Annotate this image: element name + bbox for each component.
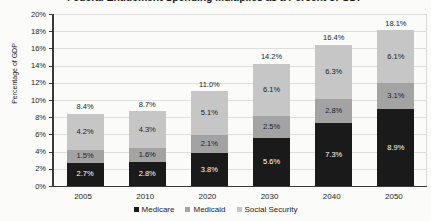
bar-segment-value-label: 1.5% bbox=[67, 153, 104, 161]
stacked-bar[interactable]: 6.1%3.1%8.9% bbox=[377, 30, 414, 186]
gridline bbox=[54, 100, 427, 101]
legend-swatch-icon bbox=[134, 207, 139, 212]
bar-total-value-label: 18.1% bbox=[369, 20, 422, 28]
bar-group[interactable]: 6.1%3.1%8.9%18.1% bbox=[377, 14, 414, 186]
bar-group[interactable]: 6.3%2.8%7.3%16.4% bbox=[315, 14, 352, 186]
legend-label: Medicaid bbox=[193, 205, 225, 214]
bar-segment-value-label: 6.3% bbox=[315, 68, 352, 76]
bar-segment-value-label: 3.1% bbox=[377, 92, 414, 100]
bar-segment-value-label: 2.1% bbox=[191, 141, 228, 149]
bar-segment-value-label: 7.3% bbox=[315, 151, 352, 159]
x-axis-tick-label: 2010 bbox=[114, 192, 176, 201]
bar-segment[interactable]: 5.6% bbox=[253, 138, 290, 186]
stacked-bar[interactable]: 4.2%1.5%2.7% bbox=[67, 114, 104, 186]
y-axis-tick-mark bbox=[49, 66, 52, 67]
gridline bbox=[54, 48, 427, 49]
y-axis-tick-label: 14% bbox=[0, 61, 46, 70]
bar-segment-value-label: 2.8% bbox=[129, 170, 166, 178]
y-axis-tick-mark bbox=[49, 14, 52, 15]
gridline bbox=[54, 117, 427, 118]
y-axis-tick-label: 18% bbox=[0, 27, 46, 36]
stacked-bar[interactable]: 5.1%2.1%3.8% bbox=[191, 91, 228, 186]
legend-item[interactable]: Social Security bbox=[237, 205, 298, 214]
legend-swatch-icon bbox=[237, 207, 242, 212]
bar-segment-value-label: 5.6% bbox=[253, 158, 290, 166]
bar-segment-value-label: 4.3% bbox=[129, 126, 166, 134]
bar-segment[interactable]: 4.3% bbox=[129, 111, 166, 148]
gridline bbox=[54, 66, 427, 67]
bar-total-value-label: 14.2% bbox=[245, 53, 298, 61]
bar-segment[interactable]: 2.1% bbox=[191, 135, 228, 153]
bar-segment[interactable]: 5.1% bbox=[191, 91, 228, 135]
x-axis-tick-label: 2040 bbox=[301, 192, 363, 201]
y-axis-tick-label: 10% bbox=[0, 96, 46, 105]
bar-segment-value-label: 6.1% bbox=[253, 86, 290, 94]
legend-swatch-icon bbox=[185, 207, 190, 212]
y-axis-tick-mark bbox=[49, 186, 52, 187]
bar-total-value-label: 16.4% bbox=[307, 34, 360, 42]
bar-segment[interactable]: 7.3% bbox=[315, 123, 352, 186]
y-axis-tick-label: 20% bbox=[0, 10, 46, 19]
bar-total-value-label: 11.0% bbox=[183, 81, 236, 89]
chart-container: Federal Entitlement Spending Multiplies … bbox=[0, 0, 431, 221]
stacked-bar[interactable]: 6.1%2.5%5.6% bbox=[253, 64, 290, 186]
chart-title: Federal Entitlement Spending Multiplies … bbox=[0, 0, 431, 3]
y-axis-tick-mark bbox=[49, 169, 52, 170]
stacked-bar[interactable]: 4.3%1.6%2.8% bbox=[129, 111, 166, 186]
gridline bbox=[54, 134, 427, 135]
gridline bbox=[54, 31, 427, 32]
bar-segment-value-label: 5.1% bbox=[191, 110, 228, 118]
stacked-bar[interactable]: 6.3%2.8%7.3% bbox=[315, 45, 352, 186]
legend-item[interactable]: Medicaid bbox=[185, 205, 225, 214]
bar-segment[interactable]: 6.3% bbox=[315, 45, 352, 99]
bar-segment-value-label: 2.5% bbox=[253, 123, 290, 131]
x-axis-tick-label: 2030 bbox=[239, 192, 301, 201]
legend-item[interactable]: Medicare bbox=[134, 205, 175, 214]
bar-segment[interactable]: 4.2% bbox=[67, 114, 104, 150]
y-axis-tick-label: 4% bbox=[0, 147, 46, 156]
y-axis-tick-label: 12% bbox=[0, 78, 46, 87]
y-axis-tick-mark bbox=[49, 134, 52, 135]
bar-segment[interactable]: 3.1% bbox=[377, 83, 414, 110]
bar-segment-value-label: 6.1% bbox=[377, 53, 414, 61]
bar-group[interactable]: 5.1%2.1%3.8%11.0% bbox=[191, 14, 228, 186]
bar-segment[interactable]: 6.1% bbox=[377, 30, 414, 82]
y-axis-tick-label: 0% bbox=[0, 182, 46, 191]
bar-group[interactable]: 4.2%1.5%2.7%8.4% bbox=[67, 14, 104, 186]
y-axis-tick-label: 6% bbox=[0, 130, 46, 139]
x-axis-tick-label: 2005 bbox=[52, 192, 114, 201]
bar-segment[interactable]: 2.8% bbox=[129, 162, 166, 186]
bar-total-value-label: 8.4% bbox=[59, 103, 112, 111]
bar-segment-value-label: 2.8% bbox=[315, 107, 352, 115]
y-axis-title: Percentage of GDP bbox=[11, 24, 18, 124]
bar-group[interactable]: 4.3%1.6%2.8%8.7% bbox=[129, 14, 166, 186]
x-axis-tick-label: 2050 bbox=[363, 192, 425, 201]
bar-segment-value-label: 2.7% bbox=[67, 171, 104, 179]
gridline bbox=[54, 152, 427, 153]
bar-segment[interactable]: 1.6% bbox=[129, 148, 166, 162]
chart-legend: MedicareMedicaidSocial Security bbox=[0, 205, 431, 214]
bar-segment[interactable]: 2.5% bbox=[253, 116, 290, 138]
bar-group[interactable]: 6.1%2.5%5.6%14.2% bbox=[253, 14, 290, 186]
bar-segment[interactable]: 2.8% bbox=[315, 99, 352, 123]
x-axis-tick-label: 2020 bbox=[176, 192, 238, 201]
bar-segment[interactable]: 6.1% bbox=[253, 64, 290, 116]
bar-segment[interactable]: 1.5% bbox=[67, 150, 104, 163]
bar-segment[interactable]: 8.9% bbox=[377, 109, 414, 186]
y-axis-tick-label: 2% bbox=[0, 164, 46, 173]
bar-total-value-label: 8.7% bbox=[121, 101, 174, 109]
y-axis-tick-mark bbox=[49, 48, 52, 49]
bar-segment-value-label: 4.2% bbox=[67, 128, 104, 136]
bar-segment[interactable]: 2.7% bbox=[67, 163, 104, 186]
bar-segment-value-label: 8.9% bbox=[377, 144, 414, 152]
y-axis-tick-mark bbox=[49, 100, 52, 101]
plot-area: 4.2%1.5%2.7%8.4%4.3%1.6%2.8%8.7%5.1%2.1%… bbox=[52, 14, 427, 187]
bar-segment-value-label: 1.6% bbox=[129, 151, 166, 159]
legend-label: Medicare bbox=[142, 205, 175, 214]
bar-segment-value-label: 3.8% bbox=[191, 166, 228, 174]
y-axis-tick-mark bbox=[49, 31, 52, 32]
y-axis-tick-mark bbox=[49, 152, 52, 153]
gridline bbox=[54, 14, 427, 15]
gridline bbox=[54, 83, 427, 84]
bar-segment[interactable]: 3.8% bbox=[191, 153, 228, 186]
